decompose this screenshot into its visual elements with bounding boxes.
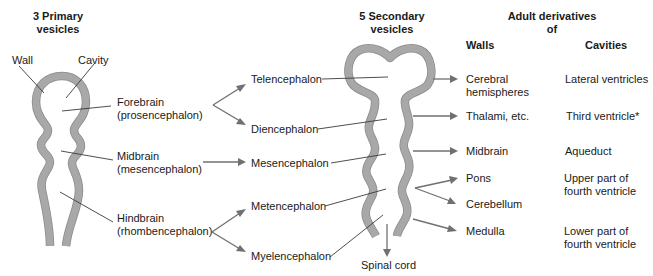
spinal-cord-label: Spinal cord	[361, 259, 416, 272]
adult-derivatives-heading: Adult derivatives of	[497, 10, 607, 36]
pons-cerebellum-arrows	[415, 176, 458, 204]
upper-fourth-line-1: Upper part of	[564, 172, 636, 185]
telencephalon-leader-line	[322, 77, 388, 79]
secondary-heading-line-2: vesicles	[355, 23, 429, 36]
secondary-vesicles-heading: 5 Secondary vesicles	[355, 10, 429, 36]
myelencephalon-label: Myelencephalon	[251, 250, 331, 263]
diencephalon-label: Diencephalon	[251, 123, 318, 136]
midbrain-arrow	[203, 158, 246, 166]
cavity-upper-fourth-ventricle: Upper part of fourth ventricle	[564, 172, 636, 198]
forebrain-split-arrows	[213, 84, 246, 125]
lower-fourth-line-1: Lower part of	[564, 225, 636, 238]
adult-heading-line-1: Adult derivatives	[497, 10, 607, 23]
primary-heading-line-1: 3 Primary	[26, 10, 90, 23]
midbrain-term: (mesencephalon)	[117, 163, 202, 176]
cavity-lower-fourth-ventricle: Lower part of fourth ventricle	[564, 225, 636, 251]
mesencephalon-label: Mesencephalon	[251, 157, 329, 170]
cavity-label: Cavity	[78, 54, 109, 67]
cerebral-line-1: Cerebral	[466, 73, 529, 86]
wall-pons: Pons	[466, 172, 491, 185]
wall-label: Wall	[12, 54, 33, 67]
mesencephalon-leader-line	[331, 154, 386, 163]
diagram-artwork	[0, 0, 653, 276]
spinal-cord-arrow	[383, 224, 391, 257]
midbrain-name: Midbrain	[117, 150, 202, 163]
wall-leader-line	[19, 66, 44, 93]
primary-heading-line-2: vesicles	[26, 23, 90, 36]
cavity-aqueduct: Aqueduct	[565, 145, 611, 158]
wall-cerebral-hemispheres: Cerebral hemispheres	[466, 73, 529, 99]
hindbrain-label: Hindbrain (rhombencephalon)	[117, 212, 212, 238]
metencephalon-leader-line	[325, 189, 386, 206]
cavities-column-heading: Cavities	[585, 39, 627, 52]
hindbrain-leader-line	[60, 192, 113, 222]
hindbrain-name: Hindbrain	[117, 212, 212, 225]
secondary-vesicle-tube	[348, 48, 431, 236]
primary-vesicles-heading: 3 Primary vesicles	[26, 10, 90, 36]
wall-cerebellum: Cerebellum	[466, 198, 522, 211]
medulla-arrow	[413, 219, 457, 232]
hindbrain-term: (rhombencephalon)	[117, 225, 212, 238]
wall-midbrain: Midbrain	[466, 145, 508, 158]
forebrain-name: Forebrain	[117, 96, 203, 109]
primary-vesicle-tube	[36, 76, 86, 246]
hindbrain-split-arrows	[212, 209, 246, 252]
wall-medulla: Medulla	[466, 225, 505, 238]
metencephalon-label: Metencephalon	[251, 200, 326, 213]
diencephalon-leader-line	[318, 119, 387, 129]
adult-heading-line-2: of	[497, 23, 607, 36]
telencephalon-label: Telencephalon	[251, 73, 322, 86]
walls-column-heading: Walls	[466, 39, 494, 52]
thalami-arrow	[413, 112, 458, 120]
lower-fourth-line-2: fourth ventricle	[564, 238, 636, 251]
wall-thalami: Thalami, etc.	[466, 110, 529, 123]
midbrain-label: Midbrain (mesencephalon)	[117, 150, 202, 176]
cerebral-line-2: hemispheres	[466, 86, 529, 99]
cavity-lateral-ventricles: Lateral ventricles	[565, 73, 648, 86]
midbrain-wall-arrow	[413, 147, 458, 155]
upper-fourth-line-2: fourth ventricle	[564, 185, 636, 198]
forebrain-label: Forebrain (prosencephalon)	[117, 96, 203, 122]
cavity-third-ventricle: Third ventricle*	[566, 110, 639, 123]
cerebral-arrow	[433, 75, 458, 83]
secondary-heading-line-1: 5 Secondary	[355, 10, 429, 23]
forebrain-term: (prosencephalon)	[117, 109, 203, 122]
